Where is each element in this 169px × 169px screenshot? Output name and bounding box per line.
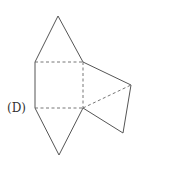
dashed-edges bbox=[35, 62, 131, 108]
solid-edge-square_top_left-to-top_apex bbox=[35, 16, 58, 62]
solid-edge-top_apex-to-square_top_right bbox=[58, 16, 83, 62]
solid-edge-bottom_right_vertex-to-square_bottom_right bbox=[83, 108, 123, 133]
solid-edge-right_vertex-to-bottom_right_vertex bbox=[123, 85, 131, 133]
figure-label: (D) bbox=[7, 101, 26, 115]
solid-edge-square_bottom_left-to-bottom_apex bbox=[35, 108, 59, 155]
dashed-edge-square_bottom_right-to-right_vertex bbox=[83, 85, 131, 108]
net-diagram: (D) bbox=[0, 0, 169, 169]
solid-edge-square_top_right-to-right_vertex bbox=[83, 62, 131, 85]
solid-edge-bottom_apex-to-square_bottom_right bbox=[59, 108, 83, 155]
